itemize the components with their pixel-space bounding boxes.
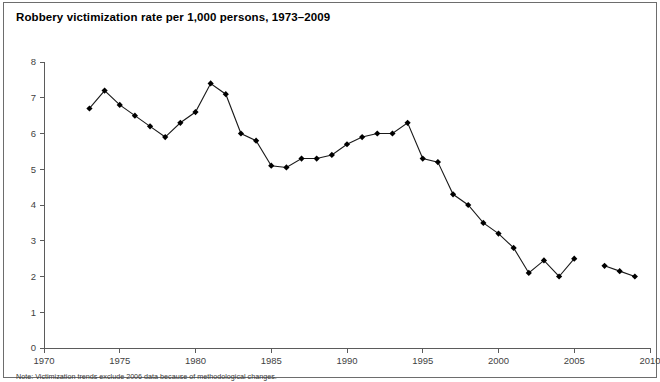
svg-text:1985: 1985 — [261, 355, 282, 366]
svg-text:2005: 2005 — [564, 355, 585, 366]
svg-text:1990: 1990 — [336, 355, 357, 366]
svg-text:5: 5 — [31, 164, 36, 175]
svg-text:1975: 1975 — [109, 355, 130, 366]
chart-plot-area: 012345678 197019751980198519901995200020… — [0, 0, 660, 382]
svg-text:2010: 2010 — [639, 355, 660, 366]
svg-text:2: 2 — [31, 271, 36, 282]
chart-figure: Robbery victimization rate per 1,000 per… — [0, 0, 660, 382]
data-series-line — [89, 83, 634, 276]
x-axis-tick-labels: 197019751980198519901995200020052010 — [33, 355, 660, 366]
y-axis-tick-labels: 012345678 — [31, 56, 36, 353]
chart-axes — [40, 62, 650, 353]
svg-text:3: 3 — [31, 235, 36, 246]
svg-text:4: 4 — [31, 199, 36, 210]
svg-text:1970: 1970 — [33, 355, 54, 366]
svg-text:1: 1 — [31, 307, 36, 318]
svg-text:1995: 1995 — [412, 355, 433, 366]
chart-note: Note: Victimization trends exclude 2006 … — [16, 372, 652, 381]
svg-text:7: 7 — [31, 92, 36, 103]
svg-text:2000: 2000 — [488, 355, 509, 366]
svg-text:8: 8 — [31, 56, 36, 67]
svg-text:1980: 1980 — [185, 355, 206, 366]
svg-text:6: 6 — [31, 128, 36, 139]
svg-text:0: 0 — [31, 342, 36, 353]
data-series-markers — [86, 80, 638, 279]
